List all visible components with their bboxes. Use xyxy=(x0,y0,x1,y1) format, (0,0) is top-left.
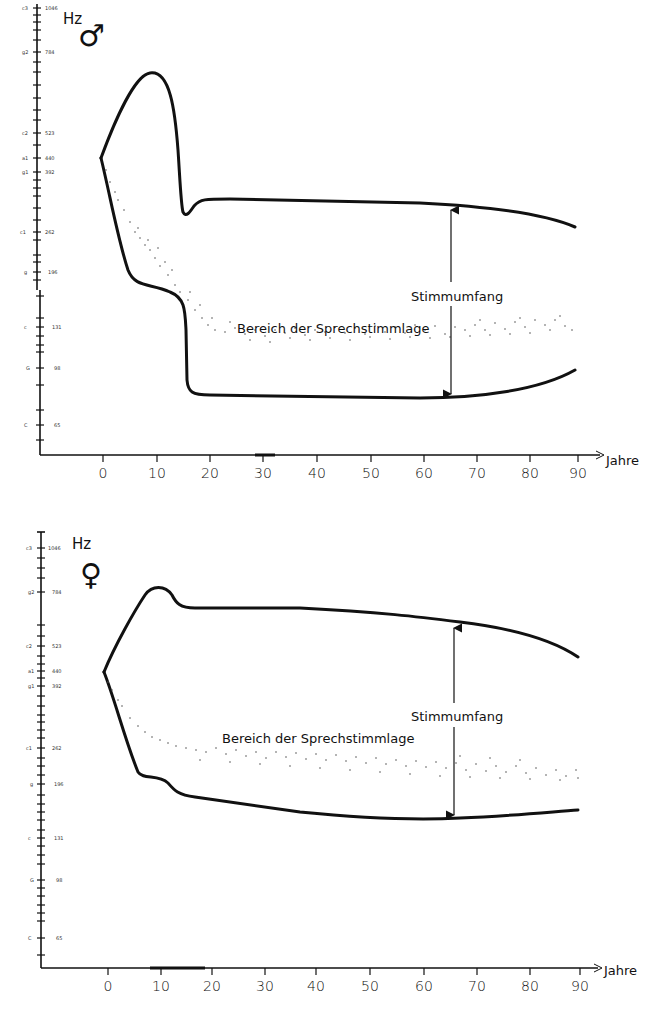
svg-text:30: 30 xyxy=(254,465,272,481)
svg-text:196: 196 xyxy=(48,269,58,275)
svg-text:10: 10 xyxy=(152,978,170,994)
svg-text:60: 60 xyxy=(415,465,433,481)
svg-text:40: 40 xyxy=(307,978,325,994)
svg-text:523: 523 xyxy=(45,130,55,136)
svg-text:40: 40 xyxy=(308,465,326,481)
svg-text:G: G xyxy=(30,877,34,883)
svg-text:440: 440 xyxy=(52,668,62,674)
male-lower-range-curve xyxy=(101,158,575,398)
svg-text:80: 80 xyxy=(521,465,539,481)
x-tick-labels: 0 10 20 30 40 50 60 70 80 90 xyxy=(104,978,589,994)
svg-text:c2: c2 xyxy=(22,130,28,136)
svg-text:c2: c2 xyxy=(26,643,32,649)
x-axis-label: Jahre xyxy=(603,963,637,978)
svg-text:262: 262 xyxy=(45,229,55,235)
svg-text:G: G xyxy=(26,365,30,371)
svg-text:392: 392 xyxy=(52,683,62,689)
x-tick-labels: 0 10 20 30 40 50 60 70 80 90 xyxy=(99,465,587,481)
svg-text:c: c xyxy=(28,835,31,841)
svg-text:50: 50 xyxy=(361,978,379,994)
male-upper-range-curve xyxy=(101,73,575,227)
svg-text:98: 98 xyxy=(56,877,62,883)
svg-text:65: 65 xyxy=(56,935,62,941)
svg-text:C: C xyxy=(24,422,28,428)
chart-female: c31046 g2784 c2523 a1440 g1392 c1262 g19… xyxy=(26,532,637,994)
svg-text:90: 90 xyxy=(569,465,587,481)
x-ticks xyxy=(103,455,578,462)
female-symbol-icon: ♀ xyxy=(80,557,102,592)
svg-text:g: g xyxy=(24,269,27,276)
svg-text:c: c xyxy=(24,324,27,330)
svg-text:1046: 1046 xyxy=(48,545,61,551)
svg-text:262: 262 xyxy=(52,745,62,751)
svg-text:65: 65 xyxy=(54,422,60,428)
svg-text:196: 196 xyxy=(54,781,64,787)
svg-text:10: 10 xyxy=(148,465,166,481)
svg-text:784: 784 xyxy=(52,589,62,595)
svg-text:20: 20 xyxy=(203,978,221,994)
svg-text:440: 440 xyxy=(45,155,55,161)
svg-text:c3: c3 xyxy=(22,5,28,11)
annotation-stimmumfang: Stimmumfang xyxy=(411,289,503,304)
y-ticks xyxy=(33,8,44,440)
svg-text:C: C xyxy=(28,935,32,941)
annotation-stimmumfang: Stimmumfang xyxy=(411,709,503,724)
male-speech-range-dots xyxy=(105,169,573,343)
svg-text:20: 20 xyxy=(201,465,219,481)
svg-text:c1: c1 xyxy=(20,229,26,235)
svg-text:g1: g1 xyxy=(22,169,28,176)
x-axis-label: Jahre xyxy=(605,453,639,468)
annotation-sprechstimmlage: Bereich der Sprechstimmlage xyxy=(237,321,429,336)
svg-text:0: 0 xyxy=(104,978,113,994)
svg-text:98: 98 xyxy=(54,365,60,371)
chart-male: c31046 g2784 c2523 a1440 g1392 c1262 g19… xyxy=(20,4,639,481)
svg-text:70: 70 xyxy=(468,978,486,994)
svg-text:g1: g1 xyxy=(28,683,34,690)
svg-text:30: 30 xyxy=(256,978,274,994)
y-tick-labels: c31046 g2784 c2523 a1440 g1392 c1262 g19… xyxy=(26,545,64,941)
svg-text:g2: g2 xyxy=(22,49,28,56)
svg-text:392: 392 xyxy=(45,169,55,175)
annotation-sprechstimmlage: Bereich der Sprechstimmlage xyxy=(222,731,414,746)
svg-text:523: 523 xyxy=(52,643,62,649)
female-upper-range-curve xyxy=(104,588,578,673)
svg-text:a1: a1 xyxy=(22,155,28,161)
svg-text:c1: c1 xyxy=(26,745,32,751)
svg-text:131: 131 xyxy=(54,835,64,841)
svg-text:60: 60 xyxy=(415,978,433,994)
svg-text:g: g xyxy=(30,781,33,788)
svg-text:70: 70 xyxy=(468,465,486,481)
svg-text:g2: g2 xyxy=(28,589,34,596)
svg-text:c3: c3 xyxy=(26,545,32,551)
voice-range-chart-figure: c31046 g2784 c2523 a1440 g1392 c1262 g19… xyxy=(0,0,649,1010)
svg-text:80: 80 xyxy=(521,978,539,994)
male-symbol-icon: ♂ xyxy=(78,18,105,53)
svg-text:131: 131 xyxy=(52,324,62,330)
svg-text:784: 784 xyxy=(45,49,55,55)
svg-text:50: 50 xyxy=(362,465,380,481)
svg-text:1046: 1046 xyxy=(45,5,58,11)
svg-text:a1: a1 xyxy=(28,668,34,674)
svg-text:0: 0 xyxy=(99,465,108,481)
y-unit-label: Hz xyxy=(72,535,91,553)
svg-text:90: 90 xyxy=(571,978,589,994)
